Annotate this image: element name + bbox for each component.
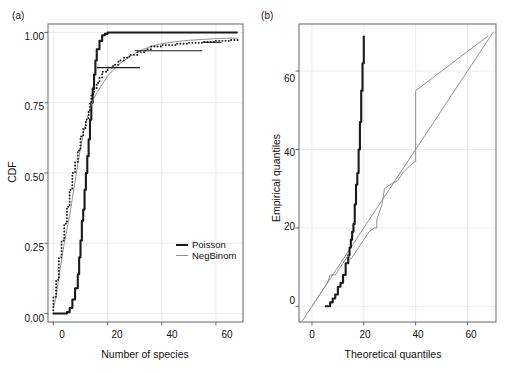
legend-line-poisson-icon [176,244,188,246]
legend-label-poisson: Poisson [192,239,226,250]
legend-item-poisson: Poisson [176,239,236,250]
panel-a-plot [0,0,253,373]
legend-item-negbinom: NegBinom [176,250,236,261]
panel-b-plot [253,0,506,373]
legend-label-negbinom: NegBinom [192,250,236,261]
panel-a: (a) 1.00 0.75 0.50 0.25 0.00 0 20 40 60 … [0,0,253,373]
plot-background [299,24,496,322]
panel-a-legend: Poisson NegBinom [176,239,236,261]
panel-b: (b) 60 40 20 0 0 20 40 60 Theoretical qu… [253,0,506,373]
legend-line-negbinom-icon [176,255,188,256]
figure-container: (a) 1.00 0.75 0.50 0.25 0.00 0 20 40 60 … [0,0,506,373]
